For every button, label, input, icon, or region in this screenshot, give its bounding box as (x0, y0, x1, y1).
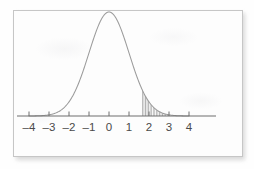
x-axis-tick-label: 0 (106, 121, 112, 133)
x-axis-tick-label: 2 (146, 121, 152, 133)
normal-distribution-plot: –4–3–2–101234 (0, 0, 241, 159)
x-axis-tick-label: –4 (23, 121, 36, 133)
x-axis-tick-label: –1 (83, 121, 96, 133)
x-axis-tick-label: 3 (166, 121, 172, 133)
normal-density-curve (29, 12, 189, 116)
x-axis-tick-label: –2 (63, 121, 76, 133)
x-axis-tick-label: –3 (43, 121, 56, 133)
x-axis-tick-label: 4 (186, 121, 193, 133)
normal-curve-figure: –4–3–2–101234 (0, 0, 254, 169)
shaded-tail-region (0, 0, 241, 159)
x-axis-tick-label: 1 (126, 121, 132, 133)
x-axis-tick-labels: –4–3–2–101234 (23, 121, 193, 133)
